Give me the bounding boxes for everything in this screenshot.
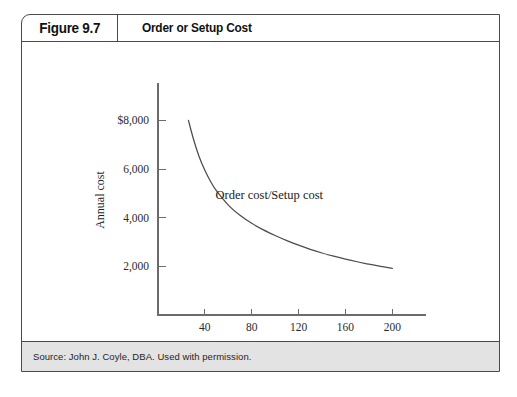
y-tick-label: 2,000 — [123, 260, 149, 273]
plot-area: 4080120160200 2,0004,0006,000$8,000 Orde… — [22, 42, 499, 341]
x-tick-label: 120 — [290, 321, 308, 333]
y-axis-ticks — [158, 120, 166, 266]
figure-header: Figure 9.7 Order or Setup Cost — [22, 15, 499, 42]
y-axis-title: Annual cost — [93, 171, 107, 229]
curve-annotation: Order cost/Setup cost — [215, 188, 323, 202]
y-axis-tick-labels: 2,0004,0006,000$8,000 — [117, 114, 149, 273]
figure-card: Figure 9.7 Order or Setup Cost 408012016… — [21, 14, 500, 372]
x-axis-ticks — [205, 309, 392, 315]
figure-title-cell: Order or Setup Cost — [118, 15, 499, 41]
x-axis-tick-labels: 4080120160200 — [199, 321, 401, 333]
figure-number-label: Figure 9.7 — [39, 20, 100, 36]
x-tick-label: 200 — [384, 321, 402, 333]
figure-number-cell: Figure 9.7 — [22, 15, 118, 41]
x-tick-label: 40 — [199, 321, 211, 333]
figure-source-label: Source: John J. Coyle, DBA. Used with pe… — [33, 351, 251, 362]
y-tick-label: 4,000 — [123, 212, 149, 225]
figure-footer: Source: John J. Coyle, DBA. Used with pe… — [22, 341, 499, 371]
x-tick-label: 80 — [246, 321, 258, 333]
curve-annotation-group: Order cost/Setup cost — [215, 188, 323, 202]
order-cost-chart: 4080120160200 2,0004,0006,000$8,000 Orde… — [22, 42, 499, 341]
y-tick-label: 6,000 — [123, 163, 149, 176]
figure-title-label: Order or Setup Cost — [142, 21, 252, 35]
x-tick-label: 160 — [337, 321, 355, 333]
y-tick-label: $8,000 — [117, 114, 149, 127]
